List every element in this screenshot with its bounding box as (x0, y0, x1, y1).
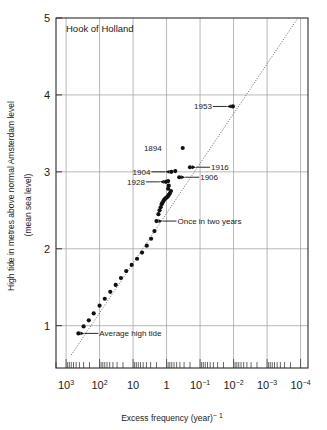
data-point (103, 297, 107, 301)
data-point (156, 212, 160, 216)
data-point (114, 283, 118, 287)
x-axis-minor-ticks (56, 359, 301, 368)
data-point (173, 169, 177, 173)
y-axis-title-group: High tide in metres above normal Amsterd… (6, 101, 33, 291)
annotation-arrowhead (160, 180, 164, 184)
y-axis-ticks (56, 18, 62, 326)
y-tick-label: 5 (44, 12, 50, 24)
annotations-group: 195318941904191619281906Once in two year… (80, 102, 241, 338)
svg-text:102: 102 (92, 379, 108, 392)
x-tick-label: 10−3 (257, 379, 277, 392)
data-point (181, 146, 185, 150)
data-point (76, 331, 80, 335)
annotation: 1894 (144, 144, 162, 153)
data-point (149, 237, 153, 241)
data-point (166, 179, 170, 183)
annotation-label: Average high tide (99, 329, 162, 338)
x-tick-label: 10−4 (290, 379, 310, 392)
figure-container: 195318941904191619281906Once in two year… (0, 0, 327, 430)
data-point (154, 219, 158, 223)
annotation-arrowhead (227, 105, 231, 109)
data-point (140, 251, 144, 255)
svg-text:10−2: 10−2 (223, 379, 243, 392)
annotation-label: 1906 (200, 173, 218, 182)
svg-text:103: 103 (58, 379, 74, 392)
svg-text:10−1: 10−1 (190, 379, 210, 392)
svg-text:10−3: 10−3 (257, 379, 277, 392)
annotation-label: Once in two years (177, 217, 241, 226)
annotation: Average high tide (80, 329, 162, 338)
data-point (130, 263, 134, 267)
plot-title: Hook of Holland (66, 23, 134, 34)
data-point (97, 304, 101, 308)
annotation-label: 1894 (144, 144, 162, 153)
fit-line-group (71, 18, 298, 355)
annotation: Once in two years (158, 217, 241, 226)
data-point (167, 184, 171, 188)
annotation-arrowhead (192, 165, 196, 169)
data-point (87, 318, 91, 322)
svg-text:1: 1 (164, 379, 170, 391)
annotation-label: 1916 (211, 163, 229, 172)
data-point (152, 229, 156, 233)
annotation-label: 1928 (127, 178, 145, 187)
y-tick-label: 1 (44, 320, 50, 332)
tide-frequency-chart: 195318941904191619281906Once in two year… (0, 0, 327, 430)
x-tick-label: 102 (92, 379, 108, 392)
data-point (124, 269, 128, 273)
annotation-arrowhead (158, 219, 162, 223)
gridlines-group (56, 18, 308, 368)
y-tick-label: 3 (44, 166, 50, 178)
data-point (108, 290, 112, 294)
annotation-label: 1953 (194, 102, 212, 111)
y-tick-label: 4 (44, 89, 50, 101)
x-tick-label: 103 (58, 379, 74, 392)
y-axis-title-line2: (mean sea level) (23, 173, 33, 236)
fit-line (71, 18, 298, 355)
svg-text:10: 10 (127, 379, 139, 391)
data-point (145, 244, 149, 248)
x-axis-title: Excess frequency (year)− 1 (121, 412, 223, 424)
annotation-label: 1904 (133, 168, 151, 177)
annotation: 1904 (133, 168, 170, 177)
data-point (135, 257, 139, 261)
plot-border (56, 18, 308, 368)
annotation: 1953 (194, 102, 231, 111)
x-axis-title-group: Excess frequency (year)− 1 (121, 412, 223, 424)
x-tick-label: 10−1 (190, 379, 210, 392)
svg-text:10−4: 10−4 (290, 379, 310, 392)
x-tick-label: 10−2 (223, 379, 243, 392)
annotation: 1916 (192, 163, 229, 172)
y-tick-label: 2 (44, 243, 50, 255)
x-axis-tick-labels: 10310210110−110−210−310−4 (58, 379, 311, 392)
data-point (81, 324, 85, 328)
data-point (231, 104, 235, 108)
y-axis-tick-labels: 12345 (44, 12, 50, 332)
data-point (169, 170, 173, 174)
x-tick-label: 1 (164, 379, 170, 391)
annotation: 1906 (181, 173, 218, 182)
data-point (188, 165, 192, 169)
annotation-arrowhead (80, 331, 84, 335)
annotation: 1928 (127, 178, 164, 187)
annotation-arrowhead (165, 170, 169, 174)
plot-frame (56, 18, 308, 368)
x-tick-label: 10 (127, 379, 139, 391)
annotation-arrowhead (181, 175, 185, 179)
data-point (119, 276, 123, 280)
data-point (92, 311, 96, 315)
y-axis-title-line1: High tide in metres above normal Amsterd… (6, 101, 16, 291)
data-point (177, 175, 181, 179)
